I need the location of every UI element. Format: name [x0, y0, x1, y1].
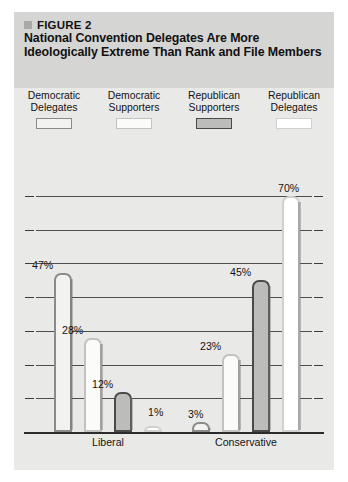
- legend-item-label-line1: Republican: [268, 90, 320, 102]
- chart-legend: DemocraticDelegatesDemocraticSupportersR…: [14, 90, 334, 148]
- category-label: Conservative: [176, 436, 316, 448]
- axis-tick: [25, 365, 34, 366]
- legend-item-label-line2: Supporters: [189, 102, 240, 114]
- bar-value-label: 1%: [148, 406, 163, 418]
- bar: [114, 392, 132, 433]
- legend-item: RepublicanDelegates: [254, 90, 334, 148]
- axis-tick: [314, 331, 323, 332]
- legend-item: RepublicanSupporters: [174, 90, 254, 148]
- axis-tick: [314, 365, 323, 366]
- legend-item-label-line2: Delegates: [31, 102, 78, 114]
- legend-swatch: [196, 118, 232, 129]
- bar: [54, 273, 72, 432]
- legend-item-label-line1: Democratic: [28, 90, 81, 102]
- bar-value-label: 45%: [230, 266, 251, 278]
- axis-tick: [314, 297, 323, 298]
- axis-tick: [314, 263, 323, 264]
- axis-tick: [25, 230, 34, 231]
- axis-tick: [314, 196, 323, 197]
- gridline: [36, 196, 312, 197]
- legend-swatch: [36, 118, 72, 129]
- chart-plot-area: 47%28%12%1%3%23%45%70%LiberalConservativ…: [36, 162, 312, 432]
- bar: [144, 426, 162, 432]
- axis-tick: [314, 230, 323, 231]
- legend-item-label-line2: Supporters: [109, 102, 160, 114]
- axis-tick: [25, 196, 34, 197]
- figure-header: FIGURE 2 National Convention Delegates A…: [14, 12, 334, 88]
- bar-value-label: 28%: [62, 324, 83, 336]
- legend-item-label-line1: Democratic: [108, 90, 161, 102]
- gridline: [36, 263, 312, 264]
- figure-number-label: FIGURE 2: [37, 19, 92, 31]
- legend-swatch: [116, 118, 152, 129]
- bar-value-label: 23%: [200, 340, 221, 352]
- bar-value-label: 3%: [188, 408, 203, 420]
- bar: [282, 196, 300, 432]
- bar-value-label: 70%: [278, 182, 299, 194]
- legend-item-label-line1: Republican: [188, 90, 240, 102]
- axis-baseline: [24, 432, 324, 434]
- axis-tick: [314, 398, 323, 399]
- axis-tick: [25, 297, 34, 298]
- legend-swatch: [276, 118, 312, 129]
- category-label: Liberal: [38, 436, 178, 448]
- legend-item: DemocraticDelegates: [14, 90, 94, 148]
- bar: [192, 422, 210, 432]
- bar: [252, 280, 270, 432]
- gridline: [36, 230, 312, 231]
- figure-number-line: FIGURE 2: [24, 19, 324, 31]
- figure-panel: FIGURE 2 National Convention Delegates A…: [14, 12, 334, 470]
- legend-item-label-line2: Delegates: [271, 102, 318, 114]
- square-bullet-icon: [24, 21, 32, 29]
- figure-title: National Convention Delegates Are More I…: [24, 32, 324, 59]
- legend-item: DemocraticSupporters: [94, 90, 174, 148]
- axis-tick: [25, 331, 34, 332]
- bar-value-label: 12%: [92, 378, 113, 390]
- axis-tick: [25, 398, 34, 399]
- bar: [222, 354, 240, 432]
- bar-value-label: 47%: [32, 259, 53, 271]
- figure-page: FIGURE 2 National Convention Delegates A…: [0, 0, 348, 482]
